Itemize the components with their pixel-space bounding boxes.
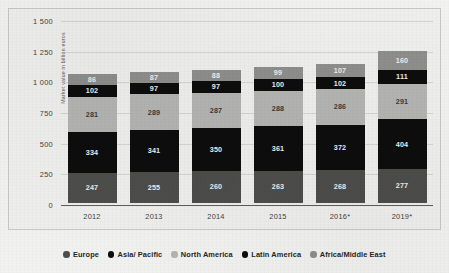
bar-segment[interactable]: 286 [316,89,365,124]
legend-label: North America [181,250,233,259]
bar-value-label: 268 [334,183,347,190]
bar-value-label: 289 [148,109,161,116]
x-axis-line [61,205,433,206]
bar-stack[interactable]: 268372286102107 [316,64,365,203]
bar-value-label: 87 [150,74,158,81]
bar-segment[interactable]: 102 [316,77,365,90]
bar-value-label: 102 [86,87,99,94]
bar-value-label: 255 [148,184,161,191]
bar-value-label: 86 [88,76,96,83]
x-axis-tick-label: 2016* [309,212,371,221]
bar-value-label: 372 [334,144,347,151]
bar-value-label: 334 [86,149,99,156]
bar-segment[interactable]: 268 [316,170,365,203]
bar-stack[interactable]: 277404291111160 [378,51,427,203]
bar-value-label: 88 [212,72,220,79]
bar-segment[interactable]: 88 [192,70,241,81]
bar-stack[interactable]: 26336128810099 [254,67,303,203]
bar-value-label: 107 [334,67,347,74]
x-axis-tick-label: 2013 [123,212,185,221]
legend-label: Africa/Middle East [320,250,386,259]
bar-value-label: 247 [86,184,99,191]
bar-segment[interactable]: 341 [130,130,179,172]
bar-segment[interactable]: 107 [316,64,365,77]
bar-segment[interactable]: 260 [192,171,241,203]
gridline [61,21,433,22]
bar-segment[interactable]: 288 [254,91,303,126]
bar-value-label: 260 [210,183,223,190]
bar-stack[interactable]: 2603502879788 [192,70,241,203]
legend-label: Europe [73,250,99,259]
y-axis-tick-label: 1 000 [7,78,53,87]
bar-segment[interactable]: 404 [378,119,427,169]
bar-segment[interactable]: 160 [378,51,427,71]
legend-swatch-icon [171,251,178,258]
bar-value-label: 97 [212,83,220,90]
bar-segment[interactable]: 372 [316,125,365,171]
legend-item[interactable]: North America [171,250,232,259]
x-axis-tick-label: 2019* [371,212,433,221]
bar-segment[interactable]: 255 [130,172,179,203]
bar-segment[interactable]: 263 [254,171,303,203]
y-axis-tick-label: 500 [7,139,53,148]
bar-segment[interactable]: 97 [130,83,179,95]
y-axis-tick-label: 750 [7,109,53,118]
legend-swatch-icon [242,251,249,258]
legend-item[interactable]: Europe [63,250,99,259]
bar-value-label: 361 [272,145,285,152]
bar-value-label: 99 [274,69,282,76]
legend-swatch-icon [63,251,70,258]
bar-value-label: 341 [148,147,161,154]
bar-value-label: 291 [396,98,409,105]
legend-item[interactable]: Africa/Middle East [310,250,385,259]
bar-segment[interactable]: 291 [378,84,427,120]
bar-segment[interactable]: 281 [68,97,117,131]
bar-segment[interactable]: 289 [130,94,179,129]
bar-stack[interactable]: 2553412899787 [130,72,179,203]
bar-segment[interactable]: 87 [130,72,179,83]
legend-swatch-icon [310,251,317,258]
bar-value-label: 102 [334,80,347,87]
bar-segment[interactable]: 287 [192,93,241,128]
bar-segment[interactable]: 361 [254,126,303,170]
plot-frame: Market value in billion euros 0250500750… [8,8,441,230]
bar-value-label: 281 [86,111,99,118]
bar-segment[interactable]: 247 [68,173,117,203]
bar-segment[interactable]: 97 [192,81,241,93]
chart-screenshot: Market value in billion euros 0250500750… [0,0,449,273]
x-axis-tick-label: 2014 [185,212,247,221]
legend-item[interactable]: Asia/ Pacific [108,250,162,259]
y-axis-tick-label: 1 500 [7,17,53,26]
y-axis-tick-label: 1 250 [7,47,53,56]
bar-value-label: 100 [272,81,285,88]
bar-segment[interactable]: 334 [68,132,117,173]
bar-value-label: 160 [396,57,409,64]
bar-value-label: 350 [210,146,223,153]
x-axis-tick-label: 2012 [61,212,123,221]
bar-value-label: 263 [272,183,285,190]
legend-label: Latin America [251,250,301,259]
bar-segment[interactable]: 102 [68,85,117,98]
x-axis-tick-label: 2015 [247,212,309,221]
bar-segment[interactable]: 277 [378,169,427,203]
bar-value-label: 97 [150,85,158,92]
y-axis-title: Market value in billion euros [60,8,66,128]
bar-value-label: 277 [396,182,409,189]
bar-value-label: 288 [272,105,285,112]
bar-segment[interactable]: 86 [68,74,117,85]
bar-value-label: 287 [210,107,223,114]
bar-value-label: 404 [396,141,409,148]
chart-legend: EuropeAsia/ PacificNorth AmericaLatin Am… [0,250,449,259]
y-axis-tick-label: 250 [7,170,53,179]
bar-segment[interactable]: 350 [192,128,241,171]
legend-item[interactable]: Latin America [242,250,301,259]
bar-stack[interactable]: 24733428110286 [68,74,117,203]
legend-label: Asia/ Pacific [117,250,162,259]
bar-value-label: 111 [396,73,408,80]
y-axis-tick-label: 0 [7,201,53,210]
bar-value-label: 286 [334,103,347,110]
bar-segment[interactable]: 99 [254,67,303,79]
bar-segment[interactable]: 111 [378,70,427,84]
legend-swatch-icon [108,251,115,258]
bar-segment[interactable]: 100 [254,79,303,91]
